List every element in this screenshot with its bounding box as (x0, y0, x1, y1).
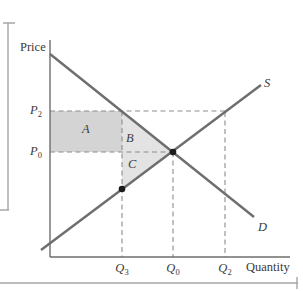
p2-tick-label: P2 (22, 104, 42, 121)
q0-subscript: 0 (175, 267, 179, 277)
equilibrium-point (170, 149, 177, 156)
p0-subscript: 0 (38, 150, 42, 160)
q0-tick-label: Q0 (162, 262, 184, 279)
region-b-label: B (126, 132, 134, 145)
supply-q3-point (119, 186, 126, 193)
p0-tick-label: P0 (22, 145, 42, 162)
q3-subscript: 3 (124, 267, 128, 277)
page-frame-bottom (0, 277, 298, 289)
q3-tick-label: Q3 (111, 262, 133, 279)
q2-subscript: 2 (227, 267, 231, 277)
supply-curve-label: S (264, 77, 270, 90)
region-c-label: C (128, 158, 136, 171)
p2-subscript: 2 (38, 109, 42, 119)
supply-curve (41, 85, 261, 250)
p0-symbol: P (30, 144, 38, 158)
p2-symbol: P (30, 103, 38, 117)
supply-demand-diagram: Price Quantity P2 P0 Q3 Q0 Q2 S D A B C (0, 0, 303, 291)
q2-tick-label: Q2 (214, 262, 236, 279)
page-frame-left (0, 23, 15, 210)
x-axis-title: Quantity (246, 261, 290, 274)
region-a-label: A (82, 123, 90, 136)
y-axis-title: Price (20, 41, 46, 54)
demand-curve-label: D (258, 221, 267, 234)
